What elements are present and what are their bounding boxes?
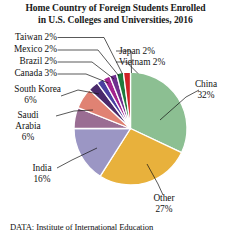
slice-label-south-korea-value: 6%: [0, 95, 61, 106]
slice-label-canada: Canada 3%: [0, 68, 57, 79]
slice-label-india-value: 16%: [22, 174, 62, 185]
slice-label-south-korea-name: South Korea: [14, 84, 61, 94]
slice-label-south-korea: South Korea: [0, 84, 61, 95]
slice-label-india: India: [22, 163, 62, 174]
slice-label-china-value: 32%: [182, 90, 230, 101]
slice-label-saudi-arabia: Saudi: [0, 110, 56, 121]
leader-line-mexico: [58, 50, 120, 76]
slice-label-saudi-arabia-value: 6%: [0, 132, 56, 143]
data-source-note: DATA: Institute of International Educati…: [10, 222, 153, 232]
slice-label-vietnam: Vietnam 2%: [119, 57, 165, 68]
pie-slices-group: [74, 72, 187, 185]
slice-label-other-value: 27%: [140, 204, 188, 215]
slice-label-japan: Japan 2%: [119, 46, 155, 57]
slice-label-brazil: Brazil 2%: [0, 56, 57, 67]
slice-label-taiwan: Taiwan 2%: [0, 32, 57, 43]
leader-line-brazil: [58, 62, 115, 79]
slice-label-other: Other: [140, 193, 188, 204]
pie-chart-figure: Home Country of Foreign Students Enrolle…: [0, 0, 231, 236]
slice-label-saudi-arabia-line2: Arabia: [0, 121, 56, 132]
slice-label-china: China: [182, 79, 230, 90]
slice-label-mexico: Mexico 2%: [0, 44, 57, 55]
